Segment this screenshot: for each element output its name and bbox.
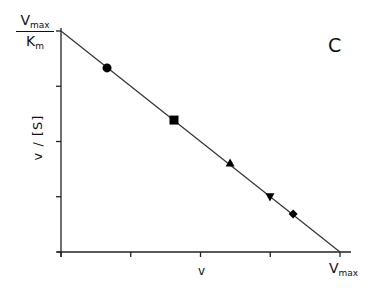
panel-label: C [328, 34, 341, 56]
triangle-down-marker [265, 193, 274, 201]
y-axis-top-label-vmax-over-km: Vmax Km [16, 12, 54, 51]
x-axis-end-label-vmax: Vmax [329, 260, 358, 278]
x-axis-label: v [198, 264, 205, 278]
vmax-main: V [329, 260, 339, 276]
regression-line [61, 31, 340, 252]
vmax-numerator: V [20, 12, 30, 28]
chart-plot-area [0, 0, 368, 290]
square-marker [169, 116, 178, 125]
vmax-sub: max [30, 20, 50, 30]
circle-marker [103, 63, 112, 72]
km-denominator: K [26, 33, 35, 49]
fit-line [61, 31, 340, 252]
y-axis-label: v / [S] [30, 103, 45, 173]
vmax-sub: max [339, 268, 359, 278]
km-sub: m [35, 41, 44, 51]
